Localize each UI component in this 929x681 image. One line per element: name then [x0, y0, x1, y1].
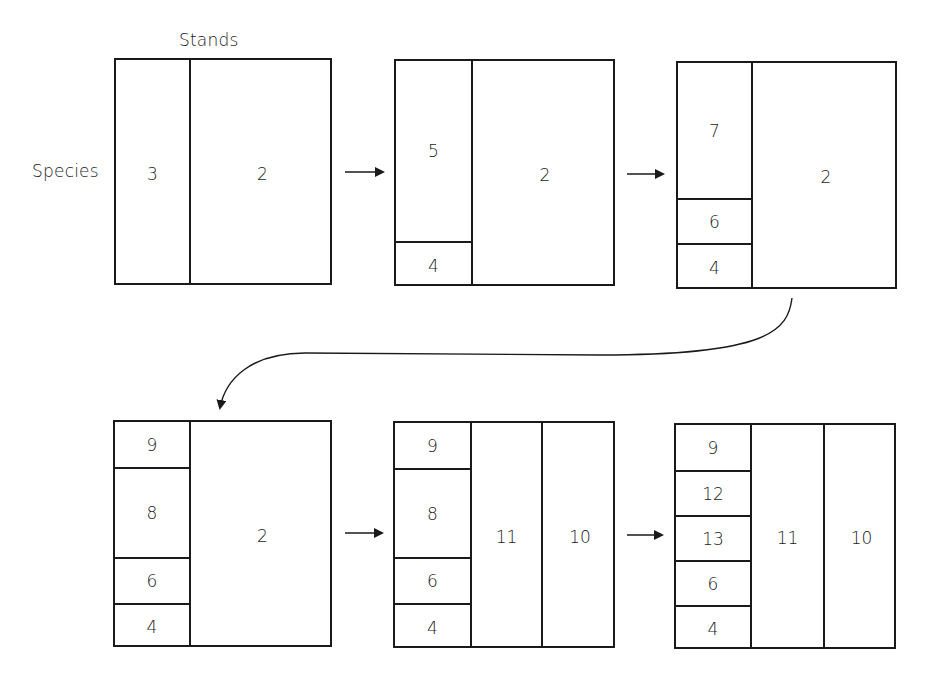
species-group-cell: 3: [116, 60, 189, 287]
stand-column: 9864: [115, 422, 189, 645]
stand-column: 2: [189, 422, 334, 645]
species-group-cell: 6: [676, 560, 750, 605]
species-group-cell: 2: [753, 63, 899, 291]
species-group-cell: 11: [472, 423, 541, 650]
diagram-panel-step-6: 91213641110: [674, 423, 896, 649]
stand-column: 10: [823, 425, 898, 647]
species-group-cell: 9: [395, 423, 470, 468]
species-group-cell: 4: [676, 605, 750, 651]
species-group-cell: 4: [115, 603, 189, 649]
species-group-cell: 8: [115, 467, 189, 557]
species-group-cell: 11: [752, 425, 823, 651]
species-group-cell: 8: [395, 468, 470, 557]
species-group-cell: 4: [678, 243, 751, 291]
species-axis-label: Species: [32, 161, 99, 181]
species-group-cell: 5: [396, 61, 471, 241]
stands-axis-label: Stands: [179, 30, 239, 50]
species-group-cell: 4: [395, 603, 470, 650]
species-group-cell: 2: [191, 422, 334, 649]
species-group-cell: 13: [676, 515, 750, 560]
diagram-panel-step-1: 32: [114, 58, 332, 285]
species-group-cell: 7: [678, 63, 751, 198]
diagram-panel-step-4: 98642: [113, 420, 332, 647]
stand-column: 11: [470, 423, 541, 646]
stand-column: 9121364: [676, 425, 750, 647]
species-group-cell: 10: [543, 423, 617, 650]
stand-column: 54: [396, 61, 471, 284]
stand-column: 9864: [395, 423, 470, 646]
diagram-panel-step-2: 542: [394, 59, 615, 286]
stand-column: 2: [189, 60, 334, 283]
diagram-panel-step-3: 7642: [676, 61, 897, 289]
stand-column: 764: [678, 63, 751, 287]
species-group-cell: 2: [473, 61, 617, 288]
species-group-cell: 6: [395, 557, 470, 603]
species-group-cell: 6: [115, 557, 189, 603]
stand-column: 3: [116, 60, 189, 283]
diagram-panel-step-5: 98641110: [393, 421, 615, 648]
species-group-cell: 2: [191, 60, 334, 287]
stand-column: 10: [541, 423, 617, 646]
species-group-cell: 12: [676, 470, 750, 515]
species-group-cell: 9: [115, 422, 189, 467]
species-group-cell: 10: [825, 425, 898, 651]
species-group-cell: 4: [396, 241, 471, 288]
stand-column: 2: [471, 61, 617, 284]
stand-column: 11: [750, 425, 823, 647]
stand-column: 2: [751, 63, 899, 287]
species-group-cell: 9: [676, 425, 750, 470]
curved-arrow-icon: [220, 298, 792, 408]
species-group-cell: 6: [678, 198, 751, 243]
